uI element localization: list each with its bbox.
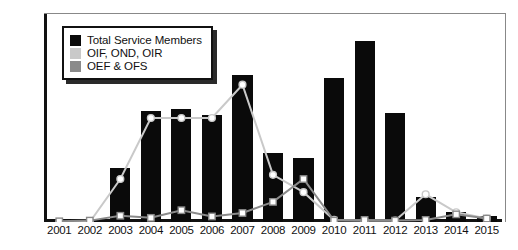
legend-item-oef-ofs: OEF & OFS bbox=[70, 60, 202, 72]
x-axis-tick: 2009 bbox=[288, 224, 319, 246]
data-point-marker bbox=[148, 215, 154, 221]
chart-container: 050100150200250300 200120022003200420052… bbox=[0, 0, 518, 250]
x-axis-tick: 2006 bbox=[197, 224, 228, 246]
data-point-marker bbox=[209, 115, 216, 122]
x-axis-tick: 2002 bbox=[75, 224, 106, 246]
data-point-marker bbox=[453, 211, 459, 217]
legend-swatch-oef-ofs bbox=[70, 61, 81, 72]
x-axis-tick: 2001 bbox=[44, 224, 75, 246]
legend-swatch-total-service-members bbox=[70, 35, 81, 46]
x-axis-tick: 2015 bbox=[471, 224, 502, 246]
x-axis-tick: 2011 bbox=[349, 224, 380, 246]
legend-item-total-service-members: Total Service Members bbox=[70, 34, 202, 46]
y-axis: 050100150200250300 bbox=[0, 0, 44, 250]
x-axis-tick: 2007 bbox=[227, 224, 258, 246]
data-point-marker bbox=[300, 176, 306, 182]
data-point-marker bbox=[239, 81, 246, 88]
data-point-marker bbox=[117, 176, 124, 183]
x-axis-tick: 2014 bbox=[441, 224, 472, 246]
x-axis-tick: 2003 bbox=[105, 224, 136, 246]
data-point-marker bbox=[331, 217, 337, 222]
data-point-marker bbox=[147, 115, 154, 122]
legend-label-oef-ofs: OEF & OFS bbox=[87, 60, 147, 72]
x-axis-tick: 2010 bbox=[319, 224, 350, 246]
x-axis-tick: 2004 bbox=[136, 224, 167, 246]
data-point-marker bbox=[87, 217, 93, 222]
data-point-marker bbox=[239, 210, 245, 216]
x-axis-tick: 2005 bbox=[166, 224, 197, 246]
data-point-marker bbox=[178, 207, 184, 213]
legend-label-oif-ond-oir: OIF, OND, OIR bbox=[87, 47, 162, 59]
data-point-marker bbox=[392, 217, 398, 222]
legend-item-oif-ond-oir: OIF, OND, OIR bbox=[70, 47, 202, 59]
data-point-marker bbox=[484, 215, 490, 221]
x-axis: 2001200220032004200520062007200820092010… bbox=[44, 224, 502, 246]
data-point-marker bbox=[422, 217, 428, 222]
data-point-marker bbox=[300, 189, 307, 196]
data-point-marker bbox=[178, 115, 185, 122]
x-axis-tick: 2013 bbox=[410, 224, 441, 246]
data-point-marker bbox=[270, 171, 277, 178]
data-point-marker bbox=[117, 213, 123, 219]
chart-legend: Total Service Members OIF, OND, OIR OEF … bbox=[62, 26, 213, 80]
data-point-marker bbox=[422, 191, 429, 198]
legend-label-total-service-members: Total Service Members bbox=[87, 34, 202, 46]
x-axis-tick: 2008 bbox=[258, 224, 289, 246]
data-point-marker bbox=[56, 218, 62, 222]
data-point-marker bbox=[209, 213, 215, 219]
x-axis-tick: 2012 bbox=[380, 224, 411, 246]
data-point-marker bbox=[270, 199, 276, 205]
plot-right-rule bbox=[505, 13, 506, 222]
legend-swatch-oif-ond-oir bbox=[70, 48, 81, 59]
data-point-marker bbox=[361, 217, 367, 222]
